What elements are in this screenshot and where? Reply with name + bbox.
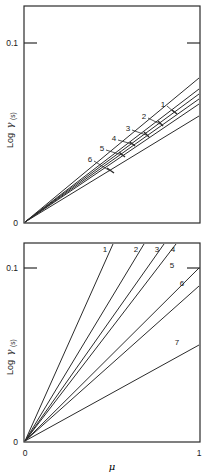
bottom-panel-ytick-label-0.1: 0.1 bbox=[6, 263, 18, 273]
top-panel-ylabel-gamma: γ bbox=[4, 122, 15, 128]
bottom-panel-ylabel: Log γ (s) bbox=[4, 339, 17, 375]
top-panel-ylabel-log: Log bbox=[5, 133, 15, 148]
top-panel-frame bbox=[24, 6, 200, 223]
top-panel-curve-label-3: 3 bbox=[126, 124, 131, 133]
top-panel-curve-label-5: 5 bbox=[100, 144, 105, 153]
svg-text:Log γ (s): Log γ (s) bbox=[4, 112, 17, 148]
bottom-panel-curve-label-2: 2 bbox=[134, 245, 139, 254]
top-panel-ylabel: Log γ (s) bbox=[4, 112, 17, 148]
bottom-panel-frame bbox=[24, 243, 200, 442]
top-panel: 0.1 0 Log γ (s) bbox=[4, 6, 200, 228]
bottom-panel-curve-label-4: 4 bbox=[171, 245, 176, 254]
top-panel-curve-label-1: 1 bbox=[161, 100, 166, 109]
top-panel-curve-label-2: 2 bbox=[142, 112, 147, 121]
bottom-panel-curve-label-6: 6 bbox=[180, 279, 185, 288]
bottom-panel-curve-label-1: 1 bbox=[103, 245, 108, 254]
bottom-panel-ytick-label-0: 0 bbox=[13, 437, 18, 447]
bottom-panel-curve-label-5: 5 bbox=[170, 261, 175, 270]
bottom-panel-xtick-label-0: 0 bbox=[23, 448, 28, 458]
bottom-panel-xtick-label-1: 1 bbox=[197, 448, 202, 458]
figure-container: 0.1 0 Log γ (s) bbox=[0, 0, 209, 473]
figure-svg: 0.1 0 Log γ (s) bbox=[0, 0, 209, 473]
bottom-panel-ylabel-sub: (s) bbox=[9, 339, 17, 347]
bottom-panel-xlabel: μ bbox=[109, 461, 116, 472]
top-panel-curve-label-4: 4 bbox=[112, 134, 117, 143]
bottom-panel-ylabel-log: Log bbox=[5, 360, 15, 375]
svg-text:Log γ (s): Log γ (s) bbox=[4, 339, 17, 375]
bottom-panel: 0.1 0 Log γ (s) 0 1 μ bbox=[4, 243, 202, 472]
top-panel-ylabel-sub: (s) bbox=[9, 112, 17, 120]
top-panel-curve-label-6: 6 bbox=[88, 155, 93, 164]
bottom-panel-curve-label-7: 7 bbox=[175, 338, 180, 347]
bottom-panel-ylabel-gamma: γ bbox=[4, 349, 15, 355]
top-panel-ytick-label-0.1: 0.1 bbox=[6, 38, 18, 48]
bottom-panel-curve-label-3: 3 bbox=[155, 245, 160, 254]
top-panel-ytick-label-0: 0 bbox=[13, 218, 18, 228]
